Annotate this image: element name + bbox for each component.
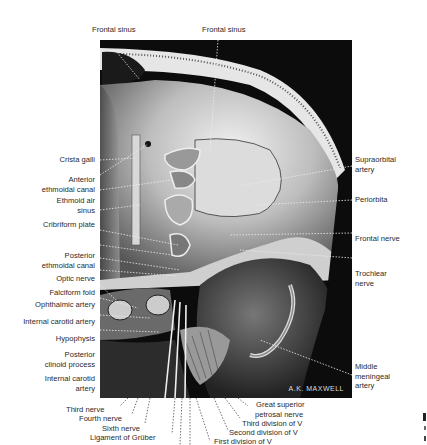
- label-first-division-v: First division of V: [214, 437, 272, 445]
- label-frontal-sinus-left: Frontal sinus: [92, 25, 135, 35]
- label-trochlear-nerve: Trochlearnerve: [355, 269, 387, 288]
- label-frontal-sinus-right: Frontal sinus: [202, 25, 245, 35]
- cropped-text-fragment: [423, 413, 426, 421]
- cropped-text-fragment: [424, 426, 426, 430]
- label-crista-galli: Crista galli: [60, 155, 95, 165]
- label-hypophysis: Hypophysis: [56, 334, 95, 344]
- anatomical-illustration: A.K. MAXWELL: [100, 40, 352, 398]
- artist-signature: A.K. MAXWELL: [289, 385, 344, 392]
- label-periorbita: Periorbita: [355, 195, 388, 205]
- label-frontal-nerve: Frontal nerve: [355, 234, 400, 244]
- label-cribriform-plate: Cribriform plate: [43, 220, 95, 230]
- label-anterior-ethmoidal-canal: Anteriorethmoidal canal: [42, 175, 95, 194]
- label-falciform-fold: Falciform fold: [49, 288, 95, 298]
- label-posterior-clinoid-process: Posteriorclinoid process: [45, 350, 95, 369]
- label-internal-carotid-artery-upper: Internal carotid artery: [23, 317, 95, 327]
- label-ethmoid-air-sinus: Ethmoid airsinus: [57, 196, 95, 215]
- label-posterior-ethmoidal-canal: Posteriorethmoidal canal: [42, 251, 95, 270]
- label-ligament-of-gruber: Ligament of Grüber: [90, 433, 155, 443]
- label-supraorbital-artery: Supraorbitalartery: [355, 155, 396, 174]
- label-ophthalmic-artery: Ophthalmic artery: [35, 300, 95, 310]
- cropped-text-fragment: [424, 436, 426, 441]
- label-optic-nerve: Optic nerve: [56, 274, 95, 284]
- label-middle-meningeal-artery: Middlemeningealartery: [355, 362, 390, 391]
- skull-base-drawing: [100, 40, 352, 398]
- label-internal-carotid-artery-lower: Internal carotidartery: [45, 374, 95, 393]
- label-great-superior-petrosal-nerve-1: Great superior: [256, 400, 305, 410]
- label-fourth-nerve: Fourth nerve: [79, 414, 122, 424]
